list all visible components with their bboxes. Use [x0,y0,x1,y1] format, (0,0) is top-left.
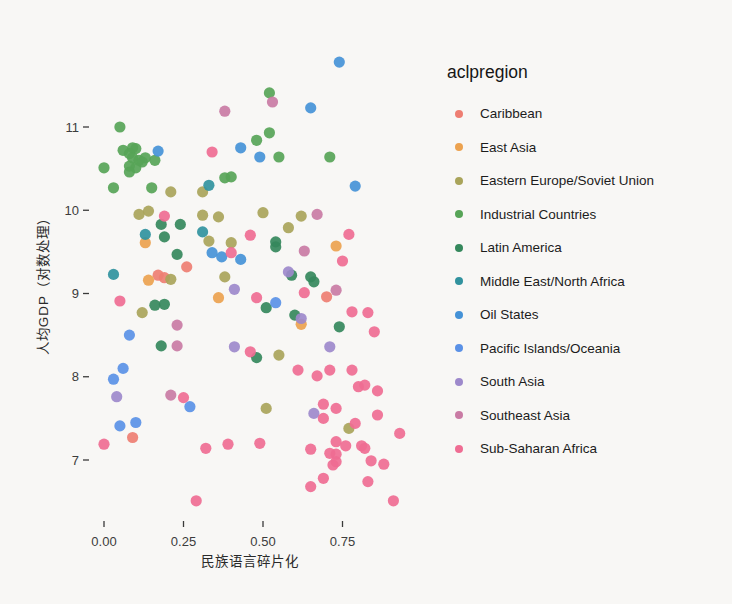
data-point [305,481,316,492]
data-point [299,245,310,256]
data-point [270,297,281,308]
data-point [159,299,170,310]
data-point [372,385,383,396]
data-point [146,182,157,193]
legend-dot-icon [455,344,463,352]
scatter-figure: 0.000.250.500.757891011 人均GDP（对数处理） 民族语言… [0,0,732,604]
data-point [137,307,148,318]
data-point [111,391,122,402]
data-point [264,127,275,138]
data-point [184,401,195,412]
data-point [114,420,125,431]
data-point [366,455,377,466]
data-point [137,156,148,167]
data-point [159,211,170,222]
data-point [359,380,370,391]
legend-item: Latin America [447,231,727,265]
data-point [197,226,208,237]
data-point [191,495,202,506]
legend-label: Pacific Islands/Oceania [480,341,620,356]
data-point [172,320,183,331]
data-point [251,292,262,303]
data-point [197,210,208,221]
data-point [283,222,294,233]
data-point [318,413,329,424]
data-point [245,346,256,357]
data-point [98,439,109,450]
data-point [98,162,109,173]
data-point [127,432,138,443]
data-point [114,121,125,132]
data-point [159,231,170,242]
x-tick-label: 0.00 [91,534,116,549]
data-point [203,180,214,191]
data-point [308,276,319,287]
data-point [318,399,329,410]
data-point [312,370,323,381]
data-point [261,302,272,313]
legend-item: Pacific Islands/Oceania [447,332,727,366]
data-point [378,459,389,470]
legend-item: Industrial Countries [447,198,727,232]
legend-label: Eastern Europe/Soviet Union [480,173,654,188]
legend-label: Caribbean [480,106,542,121]
data-point [108,269,119,280]
legend-label: Sub-Saharan Africa [480,441,597,456]
x-tick-label: 0.50 [250,534,275,549]
data-point [172,249,183,260]
legend-item: East Asia [447,131,727,165]
legend-item: Sub-Saharan Africa [447,432,727,466]
legend-item: Eastern Europe/Soviet Union [447,164,727,198]
data-point [324,341,335,352]
data-point [331,436,342,447]
legend-label: East Asia [480,140,536,155]
legend-dot-icon [455,244,463,252]
y-tick-label: 7 [72,453,79,468]
data-point [334,321,345,332]
legend-dot-icon [455,378,463,386]
data-point [130,417,141,428]
data-point [296,211,307,222]
data-point [222,439,233,450]
data-point [305,102,316,113]
data-point [331,285,342,296]
legend-title: aclpregion [447,62,727,83]
data-point [308,408,319,419]
data-point [133,209,144,220]
data-point [273,350,284,361]
data-point [359,443,370,454]
legend-label: South Asia [480,374,545,389]
data-point [108,374,119,385]
data-point [350,181,361,192]
data-point [346,365,357,376]
data-point [124,330,135,341]
data-point [312,209,323,220]
legend-label: Oil States [480,307,539,322]
data-point [372,409,383,420]
legend: aclpregion CaribbeanEast AsiaEastern Eur… [447,62,727,466]
data-point [108,182,119,193]
legend-dot-icon [455,277,463,285]
data-point [181,261,192,272]
data-point [118,363,129,374]
data-point [235,254,246,265]
data-point [337,255,348,266]
data-point [245,230,256,241]
data-point [172,340,183,351]
legend-label: Latin America [480,240,562,255]
data-point [261,403,272,414]
data-point [324,365,335,376]
data-point [226,237,237,248]
data-point [143,206,154,217]
data-point [213,292,224,303]
data-point [165,274,176,285]
data-point [321,291,332,302]
legend-dot-icon [455,210,463,218]
x-tick-label: 0.75 [330,534,355,549]
data-point [251,135,262,146]
data-point [257,207,268,218]
data-point [254,438,265,449]
legend-item: South Asia [447,365,727,399]
data-point [267,96,278,107]
data-point [140,229,151,240]
